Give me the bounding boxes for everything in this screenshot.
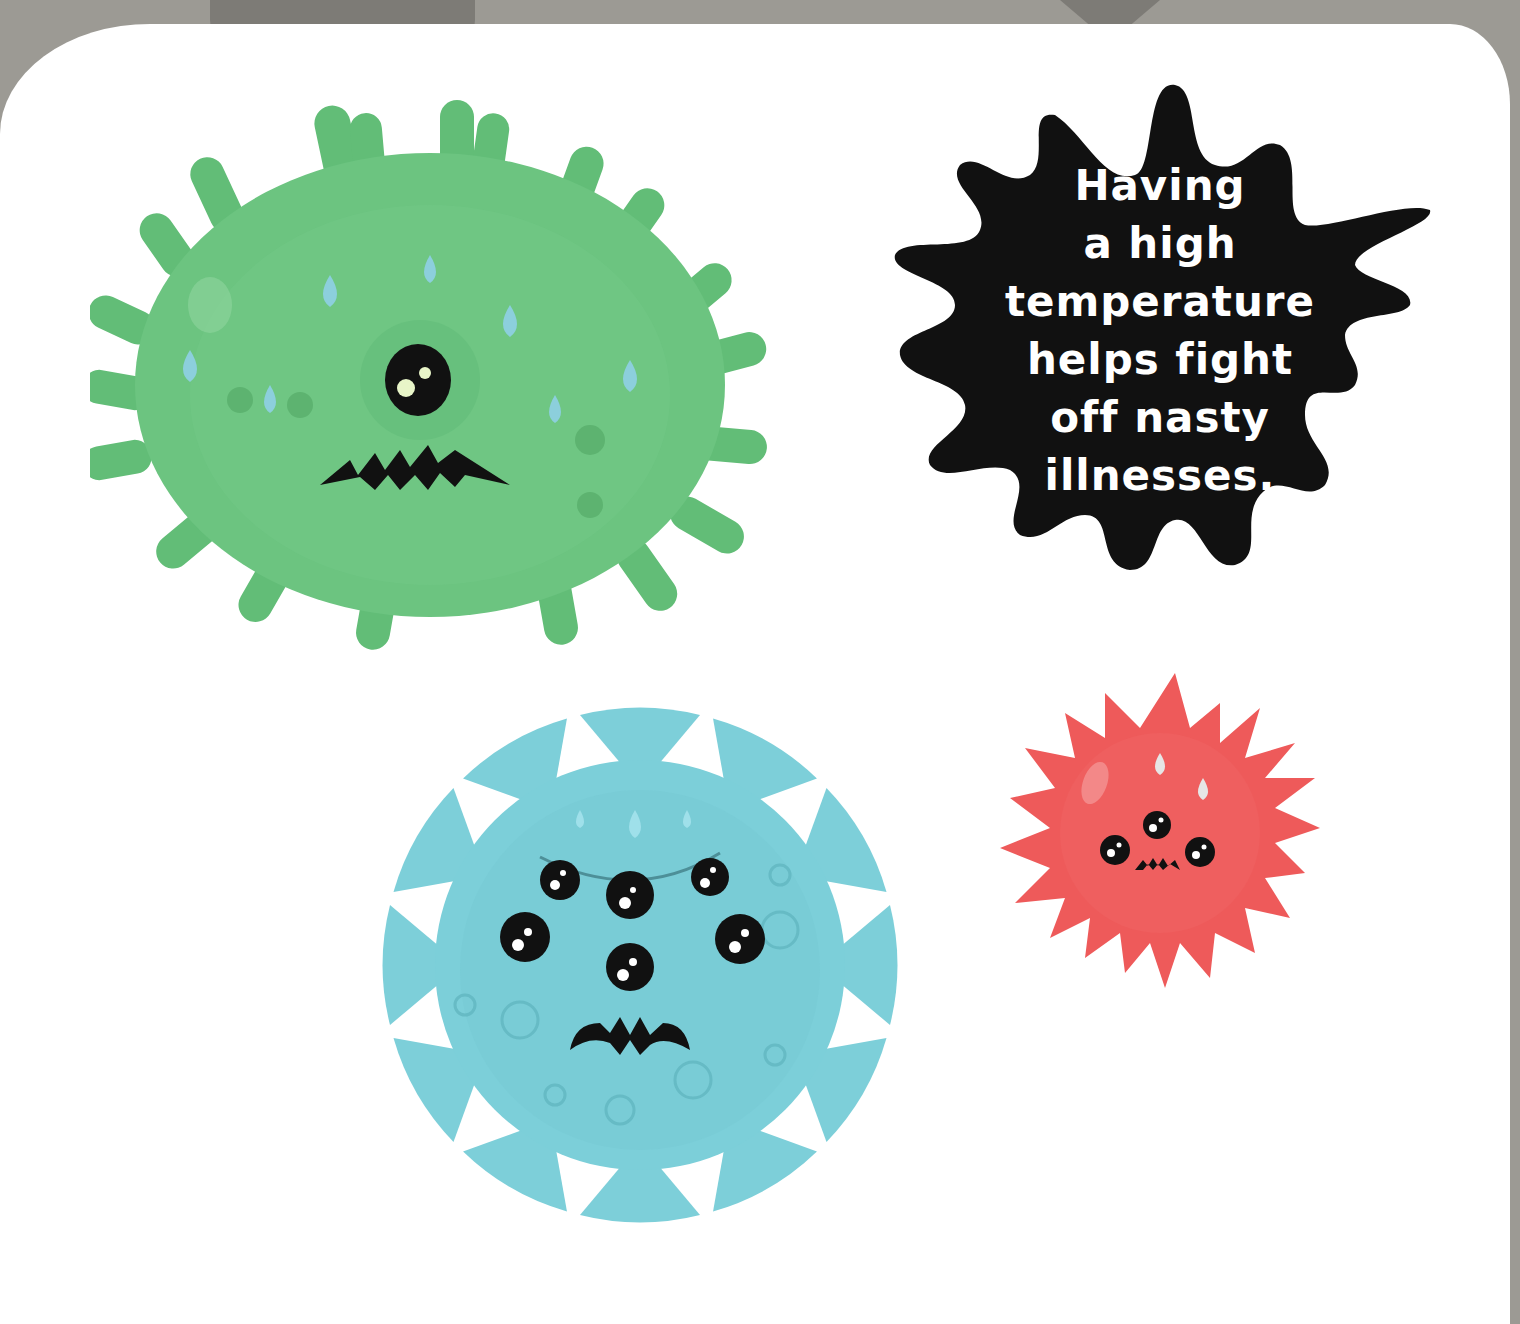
fact-line-5: off nasty [885,389,1435,447]
fact-line-4: helps fight [885,331,1435,389]
red-germ-illustration [995,668,1325,993]
fact-bubble: Having a high temperature helps fight of… [885,75,1435,575]
fact-line-3: temperature [885,273,1435,331]
fact-text: Having a high temperature helps fight of… [885,157,1435,505]
fact-line-6: illnesses. [885,447,1435,505]
fact-line-1: Having [885,157,1435,215]
blue-germ-illustration [375,705,905,1225]
green-germ-illustration [90,95,780,655]
fact-line-2: a high [885,215,1435,273]
